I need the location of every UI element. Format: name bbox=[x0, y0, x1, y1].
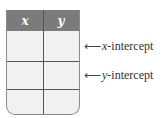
left-arrow-icon: ⟵ bbox=[84, 68, 101, 82]
column-divider bbox=[43, 10, 44, 114]
x-intercept-label: ⟵x-intercept bbox=[84, 39, 153, 54]
header-y: y bbox=[43, 10, 79, 31]
xy-table: x y bbox=[6, 10, 80, 115]
left-arrow-icon: ⟵ bbox=[84, 39, 101, 53]
y-intercept-label: ⟵y-intercept bbox=[84, 68, 153, 83]
header-x: x bbox=[7, 10, 43, 31]
